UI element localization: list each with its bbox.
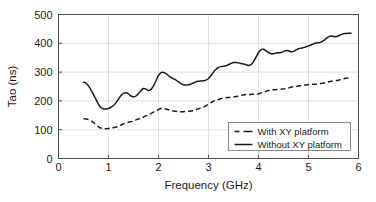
x-tick-label: 5 <box>305 161 311 173</box>
x-tick-label: 6 <box>355 161 361 173</box>
line-chart: 0123456 0100200300400500 Frequency (GHz)… <box>0 0 376 202</box>
x-axis-title: Frequency (GHz) <box>164 179 252 191</box>
y-tick-label: 500 <box>34 9 52 21</box>
x-tick-label: 2 <box>155 161 161 173</box>
chart-figure: 0123456 0100200300400500 Frequency (GHz)… <box>0 0 376 202</box>
data-series-layer <box>84 33 352 129</box>
legend-item-label: With XY platform <box>258 126 329 137</box>
legend-item-label: Without XY platform <box>258 139 342 150</box>
y-tick-label: 400 <box>34 37 52 49</box>
x-tick-label: 1 <box>105 161 111 173</box>
x-axis-tick-labels: 0123456 <box>55 161 361 173</box>
series-line-2 <box>84 33 352 109</box>
x-tick-label: 3 <box>205 161 211 173</box>
y-axis-tick-labels: 0100200300400500 <box>34 9 52 165</box>
y-axis-title: Tao (ns) <box>6 66 18 108</box>
y-tick-label: 300 <box>34 66 52 78</box>
chart-legend: With XY platformWithout XY platform <box>229 123 351 151</box>
x-tick-label: 0 <box>55 161 61 173</box>
y-tick-label: 100 <box>34 124 52 136</box>
y-tick-label: 200 <box>34 95 52 107</box>
x-tick-label: 4 <box>255 161 261 173</box>
series-line-1 <box>84 78 352 129</box>
y-tick-label: 0 <box>46 153 52 165</box>
